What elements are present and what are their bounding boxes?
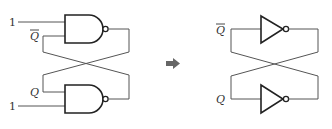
- bottom-nand-output-wire: [108, 75, 129, 99]
- bottom-nand-inversion-bubble: [103, 96, 108, 101]
- top-nand-inversion-bubble: [103, 26, 108, 31]
- bottom-nand-feedback-wire: [43, 75, 65, 92]
- right-arrow-icon: [166, 58, 180, 69]
- latch-diagram: 1 Q Q 1 Q: [0, 0, 332, 129]
- top-nand-output-wire: [108, 29, 129, 52]
- bottom-inverter-inversion-bubble: [283, 96, 288, 101]
- bottom-nand-input-constant: 1: [9, 100, 16, 113]
- right-circuit: Q Q: [216, 16, 318, 113]
- top-inverter-output-wire: [289, 29, 318, 52]
- bottom-inverter-input-label: Q: [216, 93, 225, 106]
- bottom-nand-gate: [65, 85, 103, 113]
- bottom-inverter-output-wire: [289, 76, 318, 99]
- top-nand-feedback-label: Q: [30, 30, 39, 43]
- bottom-inverter-gate: [261, 85, 283, 113]
- top-inverter-input-wire: [231, 29, 261, 52]
- bottom-inverter-input-wire: [231, 76, 261, 99]
- top-inverter-gate: [261, 16, 283, 43]
- top-inverter-input-label: Q: [216, 24, 225, 37]
- top-nand-input-constant: 1: [9, 16, 16, 29]
- bottom-nand-feedback-label: Q: [30, 86, 39, 99]
- top-inverter-inversion-bubble: [283, 26, 288, 31]
- top-nand-feedback-wire: [43, 36, 65, 52]
- left-circuit: 1 Q Q 1: [9, 15, 129, 113]
- top-nand-gate: [65, 15, 103, 43]
